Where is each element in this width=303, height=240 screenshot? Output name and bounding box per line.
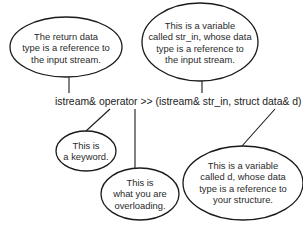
callout-line: This is <box>57 140 115 151</box>
connector-d-var <box>242 109 275 146</box>
callout-line: a keyword. <box>57 151 115 162</box>
callout-line: This is <box>102 177 178 188</box>
callout-text-return-type: The return data type is a reference to t… <box>12 31 120 65</box>
callout-line: your structure. <box>185 194 301 205</box>
callout-text-overloading: This is what you are overloading. <box>102 177 178 211</box>
callout-line: what you are <box>102 188 178 199</box>
callout-line: called str_in, whose data <box>143 31 257 42</box>
code-signature: istream& operator >> (istream& str_in, s… <box>55 96 302 107</box>
callout-text-str-in: This is a variable called str_in, whose … <box>143 20 257 66</box>
connector-keyword <box>86 109 110 131</box>
callout-line: This is a variable <box>143 20 257 31</box>
callout-text-keyword: This is a keyword. <box>57 140 115 163</box>
callout-line: This is a variable <box>185 160 301 171</box>
callout-line: type is a reference to <box>185 183 301 194</box>
callout-line: The return data <box>12 31 120 42</box>
callout-line: type is a reference to <box>143 43 257 54</box>
callout-line: the input stream. <box>12 54 120 65</box>
callout-line: called d, whose data <box>185 171 301 182</box>
callout-text-d-var: This is a variable called d, whose data … <box>185 160 301 206</box>
callout-line: the input stream. <box>143 54 257 65</box>
callout-line: type is a reference to <box>12 42 120 53</box>
callout-line: overloading. <box>102 200 178 211</box>
